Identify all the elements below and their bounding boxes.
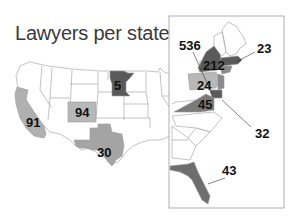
label-maryland: 32 bbox=[255, 126, 269, 141]
label-pennsylvania: 24 bbox=[197, 78, 212, 93]
label-new-york: 212 bbox=[203, 58, 225, 73]
us-map: 91 94 30 5 536 212 23 24 45 32 43 bbox=[0, 0, 295, 218]
label-texas: 30 bbox=[97, 145, 111, 160]
label-massachusetts: 23 bbox=[257, 41, 271, 56]
label-florida: 43 bbox=[222, 163, 236, 178]
label-california: 91 bbox=[26, 115, 40, 130]
label-new-york-city: 536 bbox=[179, 38, 201, 53]
label-colorado: 94 bbox=[75, 105, 90, 120]
label-minnesota: 5 bbox=[114, 78, 121, 93]
label-virginia: 45 bbox=[198, 97, 212, 112]
